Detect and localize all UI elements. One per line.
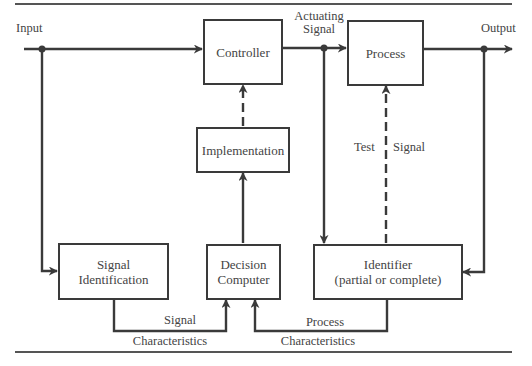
process-label: Process (366, 46, 406, 61)
input-junction-dot (39, 46, 46, 53)
signal-characteristics-label-top: Signal (150, 313, 210, 327)
decision-computer-label-line2: Computer (218, 272, 270, 287)
actuating-signal-label-line1: Actuating (289, 9, 349, 23)
test-signal-label-test: Test (354, 140, 375, 154)
signal-identification-label-line1: Signal (97, 257, 130, 272)
signal-characteristics-label-bottom: Characteristics (130, 334, 210, 348)
output-junction-dot (481, 46, 488, 53)
identifier-block: Identifier (partial or complete) (313, 244, 463, 300)
identifier-label-line2: (partial or complete) (335, 272, 442, 287)
implementation-block: Implementation (196, 127, 290, 173)
controller-block: Controller (203, 19, 283, 85)
input-to-signal-identification-line (42, 49, 57, 271)
actuating-junction-dot (321, 45, 328, 52)
input-label: Input (16, 21, 42, 35)
signal-identification-label-line2: Identification (78, 272, 148, 287)
implementation-label: Implementation (202, 143, 284, 158)
process-block: Process (347, 20, 424, 86)
output-to-identifier-line (463, 49, 484, 272)
decision-computer-label-line1: Decision (220, 257, 266, 272)
process-characteristics-label-top: Process (295, 315, 355, 329)
controller-label: Controller (216, 45, 269, 60)
decision-computer-block: Decision Computer (206, 244, 281, 300)
block-diagram: Controller Process Implementation Signal… (0, 0, 532, 366)
test-signal-label-signal: Signal (393, 140, 425, 154)
process-characteristics-label-bottom: Characteristics (278, 334, 358, 348)
output-label: Output (481, 21, 516, 35)
actuating-signal-label-line2: Signal (289, 22, 349, 36)
identifier-label-line1: Identifier (364, 257, 412, 272)
signal-identification-block: Signal Identification (58, 243, 169, 300)
